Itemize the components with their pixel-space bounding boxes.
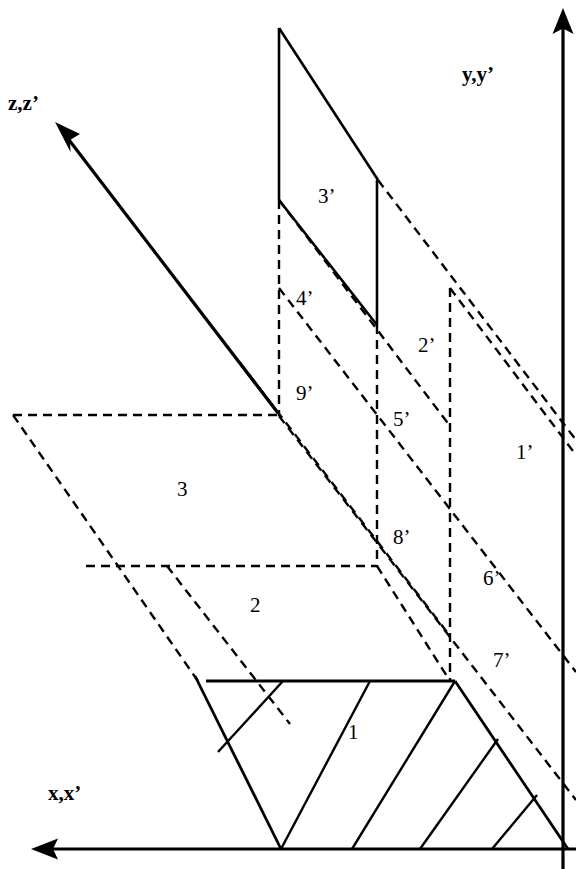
region-label-4-prime: 4’ <box>296 288 314 309</box>
solid-edges <box>240 28 378 413</box>
region-1-outline <box>195 676 568 849</box>
dashed-plane-left-edge <box>13 415 200 684</box>
region-label-8-prime: 8’ <box>393 527 411 548</box>
region-label-6-prime: 6’ <box>483 568 501 589</box>
axis-label-y: y,y’ <box>462 64 494 85</box>
region-label-2-prime: 2’ <box>418 335 436 356</box>
region-label-3-prime: 3’ <box>318 186 336 207</box>
region-label-3: 3 <box>177 479 188 500</box>
diagram-canvas: z,z’ y,y’ x,x’ 3’ 4’ 2’ 9’ 5’ 1’ 3 8’ 6’… <box>0 0 576 869</box>
region-label-1: 1 <box>348 722 359 743</box>
region-label-1-prime: 1’ <box>516 442 534 463</box>
region-label-7-prime: 7’ <box>493 650 511 671</box>
axis-label-z: z,z’ <box>8 93 39 114</box>
dashed-edges <box>13 180 576 800</box>
dashed-diag-c <box>450 288 576 455</box>
dashed-diag-g <box>167 566 290 724</box>
region-label-5-prime: 5’ <box>393 409 411 430</box>
region-label-2: 2 <box>250 595 261 616</box>
dashed-diag-a <box>378 180 576 440</box>
axis-label-x: x,x’ <box>48 783 81 804</box>
region-1-hatch-lines <box>218 681 537 849</box>
diagram-vector-layer <box>0 0 576 869</box>
dashed-diag-f <box>240 363 450 636</box>
region-label-9-prime: 9’ <box>296 383 314 404</box>
